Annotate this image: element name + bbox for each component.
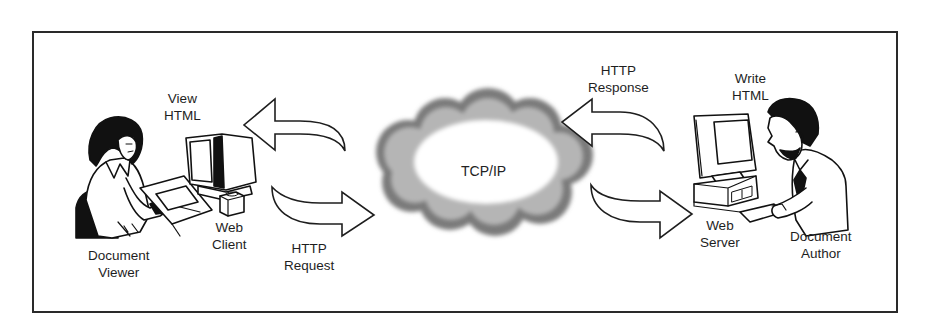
tcp-ip-cloud — [376, 88, 593, 236]
label-view-html-line2: HTML — [164, 107, 201, 124]
label-write-html: Write HTML — [732, 70, 769, 104]
label-write-html-line2: HTML — [732, 87, 769, 104]
label-web-client-line1: Web — [212, 219, 247, 236]
label-view-html-line1: View — [164, 90, 201, 107]
label-document-author-line1: Document — [790, 228, 852, 245]
label-http-response-line2: Response — [588, 79, 649, 96]
label-http-response-line1: HTTP — [588, 62, 649, 79]
arrow-to-server — [591, 185, 692, 238]
label-document-author: Document Author — [790, 228, 852, 262]
label-web-server-line2: Server — [700, 234, 740, 251]
label-document-author-line2: Author — [790, 245, 852, 262]
label-document-viewer-line2: Viewer — [88, 264, 150, 281]
label-http-request-line1: HTTP — [284, 240, 334, 257]
label-document-viewer: Document Viewer — [88, 247, 150, 281]
label-web-client-line2: Client — [212, 236, 247, 253]
label-tcp-ip: TCP/IP — [461, 163, 506, 179]
label-write-html-line1: Write — [732, 70, 769, 87]
label-http-response: HTTP Response — [588, 62, 649, 96]
label-web-server: Web Server — [700, 217, 740, 251]
label-view-html: View HTML — [164, 90, 201, 124]
label-http-request-line2: Request — [284, 257, 334, 274]
label-web-client: Web Client — [212, 219, 247, 253]
label-document-viewer-line1: Document — [88, 247, 150, 264]
arrow-to-client — [244, 99, 345, 151]
document-author-figure — [694, 99, 848, 237]
label-web-server-line1: Web — [700, 217, 740, 234]
label-http-request: HTTP Request — [284, 240, 334, 274]
arrow-http-request — [272, 187, 374, 236]
